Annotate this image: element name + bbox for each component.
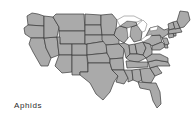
- state-shapes: [24, 11, 190, 108]
- state-TN: [126, 61, 148, 68]
- state-CO: [72, 44, 87, 55]
- state-ME: [177, 11, 190, 28]
- map-figure: Aphids: [0, 0, 196, 125]
- state-AZ: [55, 55, 72, 73]
- state-MN: [101, 14, 117, 35]
- state-WA: [27, 13, 44, 26]
- state-OK: [87, 53, 110, 63]
- state-ND: [85, 14, 101, 25]
- lake-ontario-icon: [150, 26, 158, 31]
- state-FL: [138, 82, 161, 108]
- state-OR: [24, 25, 44, 38]
- state-SD: [85, 25, 102, 35]
- state-AR: [110, 58, 124, 70]
- map-region-label: Aphids: [14, 101, 42, 111]
- state-WY: [59, 31, 85, 44]
